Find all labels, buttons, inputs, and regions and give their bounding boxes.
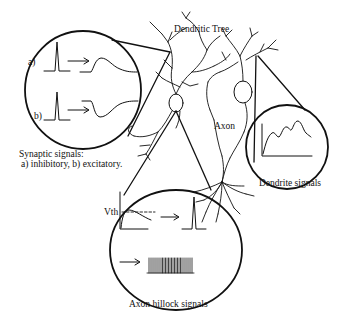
inhibitory-arrow bbox=[68, 58, 89, 64]
label-b: b) bbox=[34, 111, 42, 122]
excitatory-input-spike bbox=[44, 92, 70, 120]
axon-hillock-inset bbox=[110, 111, 242, 310]
inhibitory-response-curve bbox=[80, 58, 137, 72]
label-synaptic-legend: a) inhibitory, b) excitatory. bbox=[21, 159, 122, 170]
excitatory-response-curve bbox=[82, 101, 138, 117]
synaptic-signals-inset bbox=[25, 31, 170, 149]
label-dendrite-signals: Dendrite signals bbox=[259, 178, 321, 189]
right-soma bbox=[234, 81, 252, 103]
synaptic-circle bbox=[25, 31, 141, 149]
neuron-signal-diagram: Dendritic Tree Axon Dendrite signals Syn… bbox=[0, 0, 339, 316]
dendrite-signals-inset bbox=[246, 56, 328, 189]
synaptic-connector-bottom bbox=[128, 52, 170, 136]
dendrite-connector-left bbox=[254, 56, 256, 162]
excitatory-arrow bbox=[68, 107, 89, 113]
hillock-connector-right bbox=[176, 111, 211, 190]
label-a: a) bbox=[28, 57, 35, 68]
label-axon-hillock-signals: Axon hillock signals bbox=[129, 299, 208, 310]
vth-potential-curve bbox=[121, 210, 151, 228]
inhibitory-input-spike bbox=[44, 42, 70, 71]
label-axon: Axon bbox=[214, 121, 235, 132]
neuron-drawing bbox=[128, 12, 278, 222]
dendrite-summed-curve bbox=[263, 121, 311, 154]
left-soma bbox=[169, 94, 183, 112]
dendrite-circle bbox=[246, 105, 328, 189]
dendrite-connector-right bbox=[258, 56, 305, 110]
hillock-arrow-bottom bbox=[120, 259, 140, 265]
spike-train bbox=[147, 258, 194, 273]
dendrite-axes bbox=[262, 124, 312, 156]
label-dendritic-tree: Dendritic Tree bbox=[174, 24, 229, 35]
hillock-output-spike bbox=[182, 197, 206, 229]
label-vth: Vth bbox=[104, 207, 118, 218]
axon-hillock-circle bbox=[110, 190, 242, 310]
hillock-arrow-top bbox=[161, 214, 179, 220]
